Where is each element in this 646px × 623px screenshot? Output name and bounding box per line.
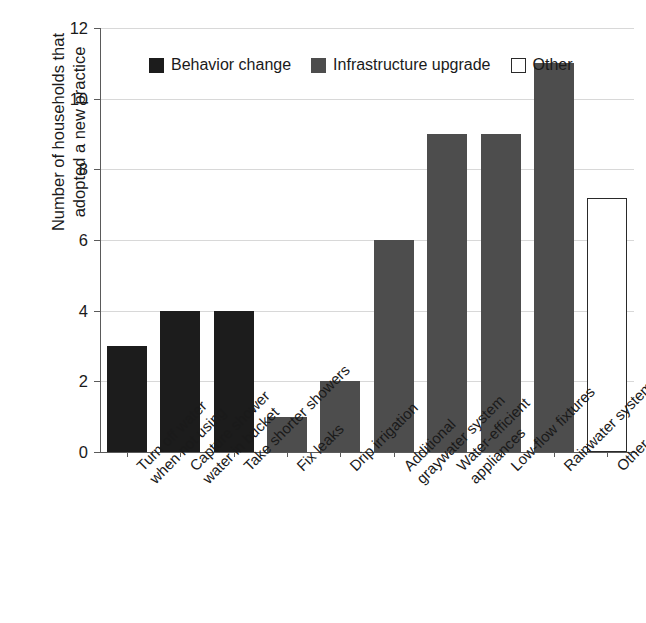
x-axis-label-line: appliances [466,475,479,488]
x-axis-tick-mark [127,452,128,457]
x-axis-label-line: Rainwater system [560,462,573,475]
x-axis-label-line: when not using [145,475,158,488]
x-axis-label-line: Other [613,462,626,475]
chart-legend: Behavior changeInfrastructure upgradeOth… [149,56,593,74]
x-axis-label: Take shorter showers [240,462,253,475]
y-axis-tick-label: 8 [52,160,88,179]
bar[interactable] [107,346,147,452]
x-axis-label-line: Take shorter showers [240,462,253,475]
x-axis-label: Water-efficientappliances [453,462,478,487]
plot-area [100,28,634,452]
x-axis-tick-mark [607,452,608,457]
x-axis-label-line: Water-efficient [453,462,466,475]
bar[interactable] [427,134,467,452]
y-axis-tick-label: 2 [52,372,88,391]
x-axis-tick-mark [394,452,395,457]
legend-item[interactable]: Other [511,56,573,74]
x-axis-label: Turn off waterwhen not using [133,462,158,487]
x-axis-label: Drip irrigation [346,462,359,475]
bar[interactable] [534,63,574,452]
y-axis-tick-label: 12 [52,19,88,38]
legend-item[interactable]: Infrastructure upgrade [311,56,490,74]
x-axis-label-line: Additional [400,462,413,475]
x-axis-label-line: Low-flow fixtures [507,462,520,475]
legend-item[interactable]: Behavior change [149,56,291,74]
x-axis-label-line: Drip irrigation [346,462,359,475]
x-axis-label: Capture showerwater in bucket [186,462,211,487]
y-axis-tick-label: 6 [52,231,88,250]
x-axis-label-line: Fix leaks [293,462,306,475]
x-axis-label: Other [613,462,626,475]
legend-label: Behavior change [171,56,291,74]
y-axis-tick-label: 10 [52,89,88,108]
x-axis-tick-mark [340,452,341,457]
x-axis-label: Fix leaks [293,462,306,475]
x-axis-label: Additionalgraywater system [400,462,425,487]
x-axis-label-line: Capture shower [186,462,199,475]
legend-swatch-icon [311,58,326,73]
x-axis-label-line: graywater system [412,475,425,488]
x-axis-label-line: Turn off water [133,462,146,475]
y-axis-tick-label: 4 [52,301,88,320]
x-axis-label: Rainwater system [560,462,573,475]
x-axis-label-line: water in bucket [199,475,212,488]
bar-chart: Number of households that adopted a new … [0,0,646,623]
y-axis-tick-label: 0 [52,443,88,462]
legend-swatch-icon [149,58,164,73]
legend-label: Infrastructure upgrade [333,56,490,74]
x-axis-label: Low-flow fixtures [507,462,520,475]
x-axis-tick-mark [554,452,555,457]
legend-swatch-icon [511,58,526,73]
legend-label: Other [533,56,573,74]
x-axis-tick-mark [287,452,288,457]
